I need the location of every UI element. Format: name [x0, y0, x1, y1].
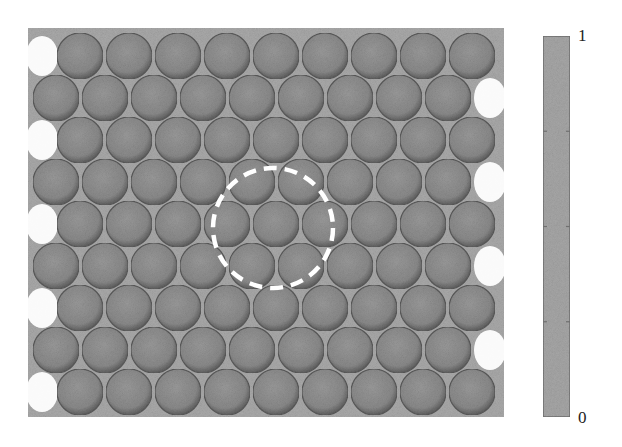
- sphere: [302, 117, 348, 163]
- sphere: [302, 33, 348, 79]
- sphere: [400, 117, 446, 163]
- sphere: [425, 159, 471, 205]
- edge-crescent: [26, 372, 58, 412]
- sphere: [253, 285, 299, 331]
- edge-crescent: [474, 162, 506, 202]
- sphere: [253, 369, 299, 415]
- sphere: [131, 327, 177, 373]
- sphere: [351, 117, 397, 163]
- sphere: [229, 75, 275, 121]
- edge-crescent: [26, 120, 58, 160]
- sphere: [155, 369, 201, 415]
- packing-frame: [26, 28, 506, 417]
- sphere: [302, 369, 348, 415]
- sphere: [376, 327, 422, 373]
- sphere: [204, 369, 250, 415]
- edge-crescent: [474, 246, 506, 286]
- sphere: [82, 75, 128, 121]
- sphere: [204, 117, 250, 163]
- sphere: [449, 369, 495, 415]
- sphere: [425, 327, 471, 373]
- sphere: [204, 33, 250, 79]
- sphere: [57, 201, 103, 247]
- colorbar: [543, 36, 570, 417]
- sphere: [82, 159, 128, 205]
- colorbar-max-label: 1: [578, 26, 587, 46]
- sphere: [33, 327, 79, 373]
- colorbar-min-label: 0: [578, 408, 587, 428]
- edge-crescent: [26, 36, 58, 76]
- sphere: [57, 369, 103, 415]
- sphere: [376, 75, 422, 121]
- sphere: [351, 369, 397, 415]
- edge-crescent: [26, 204, 58, 244]
- sphere: [33, 159, 79, 205]
- sphere: [400, 201, 446, 247]
- sphere: [204, 285, 250, 331]
- sphere: [278, 159, 324, 205]
- sphere: [33, 243, 79, 289]
- sphere: [57, 33, 103, 79]
- sphere: [425, 243, 471, 289]
- sphere: [376, 159, 422, 205]
- edge-crescent: [26, 288, 58, 328]
- sphere: [106, 201, 152, 247]
- sphere: [351, 201, 397, 247]
- sphere: [82, 327, 128, 373]
- sphere: [57, 117, 103, 163]
- sphere: [302, 285, 348, 331]
- sphere: [449, 285, 495, 331]
- sphere: [278, 75, 324, 121]
- sphere: [253, 33, 299, 79]
- sphere: [425, 75, 471, 121]
- sphere: [180, 75, 226, 121]
- sphere: [106, 285, 152, 331]
- edge-crescent: [474, 330, 506, 370]
- sphere: [302, 201, 348, 247]
- sphere: [327, 327, 373, 373]
- sphere: [449, 117, 495, 163]
- sphere: [180, 327, 226, 373]
- sphere: [449, 201, 495, 247]
- edge-crescent: [474, 78, 506, 118]
- sphere: [106, 33, 152, 79]
- sphere: [278, 327, 324, 373]
- sphere-layer: [33, 33, 495, 415]
- sphere: [400, 33, 446, 79]
- sphere: [131, 243, 177, 289]
- sphere: [155, 33, 201, 79]
- sphere: [106, 117, 152, 163]
- sphere: [351, 33, 397, 79]
- sphere: [229, 327, 275, 373]
- sphere: [400, 369, 446, 415]
- sphere: [155, 201, 201, 247]
- sphere: [449, 33, 495, 79]
- sphere: [327, 75, 373, 121]
- sphere: [180, 243, 226, 289]
- colorbar-bar: [543, 36, 570, 417]
- sphere-packing-figure: [0, 0, 622, 447]
- sphere: [376, 243, 422, 289]
- sphere: [155, 285, 201, 331]
- sphere: [33, 75, 79, 121]
- sphere: [131, 159, 177, 205]
- sphere: [327, 243, 373, 289]
- sphere: [82, 243, 128, 289]
- sphere: [253, 201, 299, 247]
- sphere: [131, 75, 177, 121]
- sphere: [106, 369, 152, 415]
- sphere: [155, 117, 201, 163]
- sphere: [253, 117, 299, 163]
- sphere: [327, 159, 373, 205]
- sphere: [400, 285, 446, 331]
- sphere: [57, 285, 103, 331]
- sphere: [351, 285, 397, 331]
